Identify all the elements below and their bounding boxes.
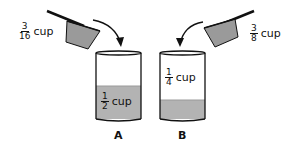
scoop-b-icon (204, 11, 254, 47)
fraction: 1 4 (165, 68, 173, 87)
scoop-a-icon (47, 11, 100, 49)
arrow-b-icon (176, 22, 203, 47)
container-b-amount: 1 4 cup (165, 68, 196, 87)
scoop-a-amount: 3 16 cup (19, 22, 53, 41)
container-b-label: B (178, 129, 186, 142)
scoop-b-amount: 3 8 cup (250, 24, 281, 43)
fraction: 3 16 (19, 22, 30, 41)
container-a-amount: 1 2 cup (101, 92, 132, 111)
fraction: 1 2 (101, 92, 109, 111)
container-a-label: A (114, 129, 123, 142)
measuring-cups-diagram: 3 16 cup 3 8 cup 1 2 cup 1 4 cup A B (0, 0, 294, 151)
fraction: 3 8 (250, 24, 258, 43)
